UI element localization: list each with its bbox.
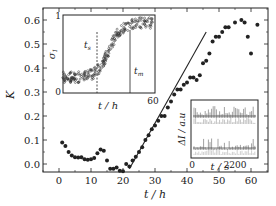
svg-text:0: 0 [56,175,62,186]
svg-text:0.5: 0.5 [24,39,40,50]
svg-text:10: 10 [85,175,98,186]
inset-sigma: ts tm 1 0 60 t / h σ1 [46,11,159,111]
inset1-ytick-1: 1 [55,11,61,21]
svg-text:0.2: 0.2 [24,111,40,122]
main-x-axis-label: t / h [144,188,166,201]
inset1-x-axis-label: t / h [98,100,118,111]
inset-intensity: 0 2200 t / s ΔI / a.u [177,100,258,172]
inset2-y-axis-label: ΔI / a.u [177,112,187,146]
svg-text:0.4: 0.4 [24,63,40,74]
main-y-axis-label: K [4,90,17,100]
svg-text:30: 30 [149,175,162,186]
svg-text:60: 60 [245,175,258,186]
inset1-y-axis-label: σ1 [46,49,58,60]
chart: 01020304050600.00.10.20.30.40.50.6 t / h… [0,0,276,206]
inset2-xtick-0: 0 [189,160,195,170]
inset1-xtick-60: 60 [147,96,159,106]
inset2-x-axis-label: t / s [211,161,230,172]
svg-text:50: 50 [213,175,226,186]
svg-text:0.3: 0.3 [24,87,40,98]
svg-text:20: 20 [117,175,130,186]
svg-text:0.1: 0.1 [24,135,40,146]
svg-text:0.6: 0.6 [24,15,40,26]
svg-text:40: 40 [181,175,194,186]
inset1-ytick-0: 0 [55,87,61,97]
svg-text:0.0: 0.0 [24,159,40,170]
